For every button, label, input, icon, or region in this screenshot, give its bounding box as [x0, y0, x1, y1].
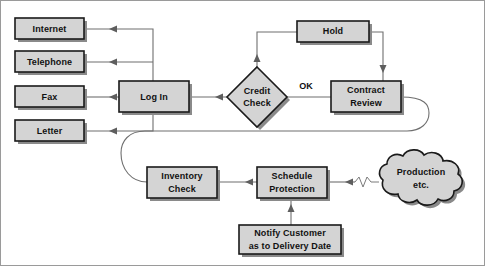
node-production-label-line1: Production: [397, 167, 446, 177]
node-inventory-check-label-line2: Check: [168, 184, 196, 194]
node-login-label: Log In: [140, 92, 168, 102]
edge-label-ok: OK: [299, 81, 313, 91]
node-notify-customer-label-line2: as to Delivery Date: [249, 241, 331, 251]
connector-notify-to-schedule: [288, 197, 295, 225]
node-contract-review[interactable]: Contract Review: [331, 81, 404, 115]
connector-credit-to-hold: [254, 32, 298, 67]
node-schedule-protection[interactable]: Schedule Protection: [257, 167, 330, 201]
connector-schedule-to-production: [327, 177, 379, 187]
node-schedule-protection-label-line2: Protection: [269, 184, 315, 194]
node-internet-label: Internet: [33, 24, 67, 34]
node-telephone-label: Telephone: [27, 57, 72, 67]
node-schedule-protection-label-line1: Schedule: [272, 171, 313, 181]
connector-telephone-to-login: [87, 59, 153, 66]
node-telephone[interactable]: Telephone: [15, 51, 87, 75]
node-notify-customer[interactable]: Notify Customer as to Delivery Date: [239, 225, 344, 257]
node-contract-review-label-line1: Contract: [347, 85, 385, 95]
node-inventory-check-label-line1: Inventory: [161, 171, 202, 181]
flowchart-canvas: Internet Telephone Fax Letter Log In: [0, 0, 485, 266]
node-credit-check-label-line1: Credit: [244, 86, 271, 96]
node-inventory-check[interactable]: Inventory Check: [147, 167, 220, 201]
connector-fax-to-login: [87, 94, 119, 101]
connector-login-to-credit: [189, 94, 227, 101]
node-fax-label: Fax: [42, 92, 58, 102]
node-hold-label: Hold: [323, 26, 343, 36]
node-contract-review-label-line2: Review: [350, 98, 383, 108]
node-login[interactable]: Log In: [119, 81, 192, 115]
node-production-cloud[interactable]: Production etc.: [380, 150, 466, 208]
node-internet[interactable]: Internet: [15, 18, 87, 42]
node-letter-label: Letter: [37, 126, 63, 136]
zigzag-connector: [355, 177, 379, 187]
flowchart-svg: Internet Telephone Fax Letter Log In: [1, 1, 485, 266]
node-notify-customer-label-line1: Notify Customer: [254, 228, 326, 238]
node-fax[interactable]: Fax: [15, 86, 87, 110]
node-letter[interactable]: Letter: [15, 120, 87, 144]
node-production-label-line2: etc.: [413, 180, 429, 190]
node-hold[interactable]: Hold: [297, 21, 372, 45]
connector-internet-to-login: [87, 26, 153, 82]
connector-inventory-to-schedule: [217, 179, 257, 186]
node-credit-check[interactable]: Credit Check: [227, 67, 290, 130]
node-credit-check-label-line2: Check: [243, 98, 271, 108]
